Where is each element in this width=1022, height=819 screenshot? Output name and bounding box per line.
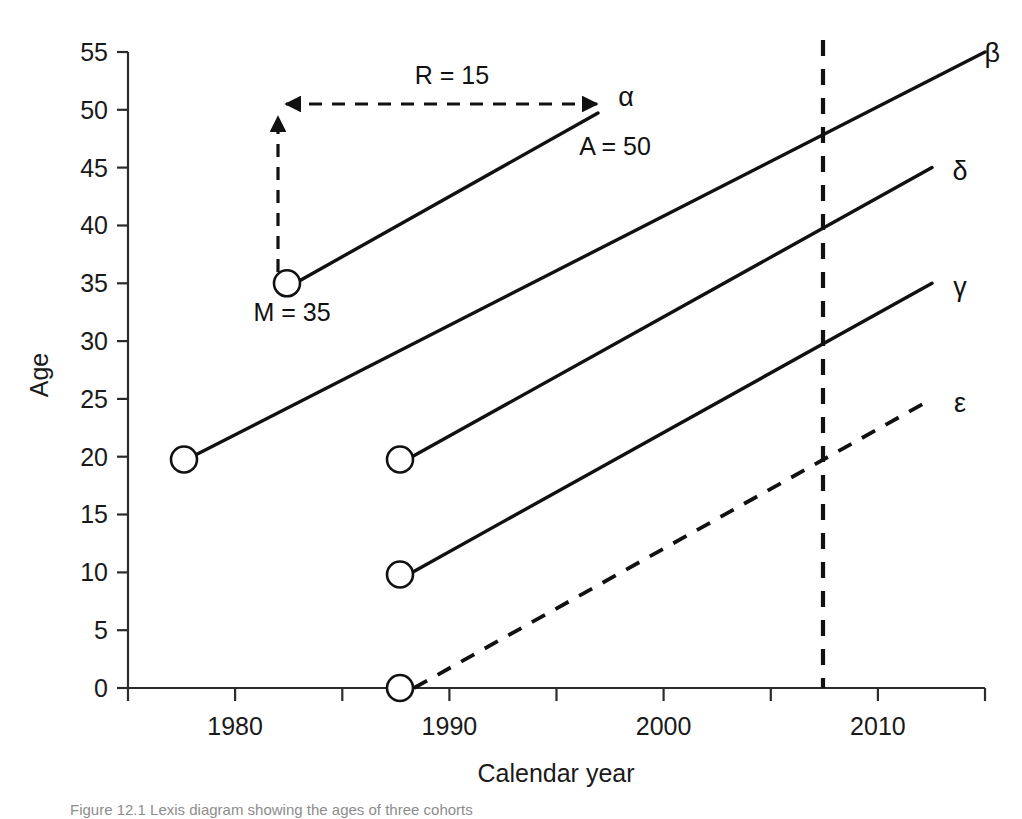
y-tick-label-20: 20 bbox=[80, 443, 108, 471]
lexis-diagram-figure: 0 5 10 15 20 25 30 35 40 45 50 55 Age bbox=[0, 0, 1022, 819]
series-beta-start-marker bbox=[171, 447, 197, 473]
y-tick-label-5: 5 bbox=[94, 616, 108, 644]
y-axis: 0 5 10 15 20 25 30 35 40 45 50 55 Age bbox=[25, 38, 128, 702]
series-alpha-start-marker bbox=[274, 270, 300, 296]
figure-caption: Figure 12.1 Lexis diagram showing the ag… bbox=[70, 801, 970, 818]
series-delta-label: δ bbox=[952, 156, 967, 186]
y-tick-label-35: 35 bbox=[80, 269, 108, 297]
series-delta-start-marker bbox=[387, 447, 413, 473]
chart-canvas: 0 5 10 15 20 25 30 35 40 45 50 55 Age bbox=[0, 0, 1022, 819]
x-tick-label-1980: 1980 bbox=[207, 712, 263, 740]
annotation-age-label: A = 50 bbox=[579, 132, 651, 160]
series-alpha-line bbox=[300, 113, 598, 281]
y-tick-label-0: 0 bbox=[94, 674, 108, 702]
annotation-start-age-label: M = 35 bbox=[253, 298, 330, 326]
series-alpha-label: α bbox=[618, 82, 634, 112]
series-gamma-label: γ bbox=[953, 272, 967, 302]
y-tick-label-45: 45 bbox=[80, 154, 108, 182]
y-tick-label-30: 30 bbox=[80, 327, 108, 355]
x-tick-label-1990: 1990 bbox=[422, 712, 478, 740]
y-tick-label-25: 25 bbox=[80, 385, 108, 413]
series-gamma-line bbox=[412, 283, 932, 572]
y-tick-label-10: 10 bbox=[80, 558, 108, 586]
annotation-range-label: R = 15 bbox=[415, 61, 489, 89]
y-tick-label-50: 50 bbox=[80, 96, 108, 124]
x-tick-label-2010: 2010 bbox=[850, 712, 906, 740]
series-beta-line bbox=[192, 52, 985, 457]
y-tick-label-55: 55 bbox=[80, 38, 108, 66]
y-axis-title: Age bbox=[25, 353, 53, 397]
x-axis: 1980 1990 2000 2010 Calendar year bbox=[128, 688, 985, 787]
y-tick-label-15: 15 bbox=[80, 500, 108, 528]
x-axis-title: Calendar year bbox=[477, 759, 634, 787]
series-alpha: α bbox=[274, 82, 634, 296]
x-tick-label-2000: 2000 bbox=[636, 712, 692, 740]
series-epsilon-label: ε bbox=[954, 388, 966, 418]
series-beta-label: β bbox=[984, 38, 1000, 68]
series-gamma-start-marker bbox=[387, 562, 413, 588]
series-epsilon: ε bbox=[387, 388, 966, 701]
y-tick-label-40: 40 bbox=[80, 211, 108, 239]
series-epsilon-line bbox=[414, 399, 932, 688]
series-epsilon-start-marker bbox=[387, 675, 413, 701]
